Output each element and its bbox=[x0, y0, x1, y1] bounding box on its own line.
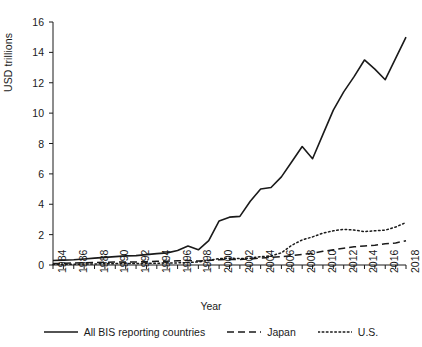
x-tick-1984: 1984 bbox=[57, 250, 68, 273]
y-tick-8: 8 bbox=[18, 139, 44, 150]
plot-area bbox=[0, 0, 422, 347]
y-tick-12: 12 bbox=[18, 78, 44, 89]
chart-container: USD trillions Year 0246810121416 1984198… bbox=[0, 0, 422, 347]
x-tick-2014: 2014 bbox=[368, 250, 379, 273]
y-axis-title: USD trillions bbox=[2, 76, 14, 92]
x-tick-2002: 2002 bbox=[244, 250, 255, 273]
x-tick-1998: 1998 bbox=[202, 250, 213, 273]
x-tick-2006: 2006 bbox=[285, 250, 296, 273]
x-axis-title: Year bbox=[0, 300, 422, 312]
x-tick-2012: 2012 bbox=[348, 250, 359, 273]
x-tick-1994: 1994 bbox=[161, 250, 172, 273]
legend-swatch-dotted-icon bbox=[318, 328, 352, 336]
legend-label-0: All BIS reporting countries bbox=[84, 326, 205, 338]
legend-label-1: Japan bbox=[267, 326, 296, 338]
x-tick-2008: 2008 bbox=[306, 250, 317, 273]
legend-entry-2[interactable]: U.S. bbox=[318, 326, 378, 338]
x-tick-1990: 1990 bbox=[119, 250, 130, 273]
x-tick-2010: 2010 bbox=[327, 250, 338, 273]
x-tick-2016: 2016 bbox=[389, 250, 400, 273]
y-tick-0: 0 bbox=[18, 260, 44, 271]
x-tick-2000: 2000 bbox=[223, 250, 234, 273]
x-tick-1988: 1988 bbox=[99, 250, 110, 273]
legend-entry-1[interactable]: Japan bbox=[227, 326, 296, 338]
y-tick-10: 10 bbox=[18, 108, 44, 119]
legend-swatch-solid-icon bbox=[44, 328, 78, 336]
y-tick-4: 4 bbox=[18, 199, 44, 210]
y-tick-2: 2 bbox=[18, 230, 44, 241]
x-tick-2004: 2004 bbox=[265, 250, 276, 273]
y-tick-16: 16 bbox=[18, 17, 44, 28]
legend-entry-0[interactable]: All BIS reporting countries bbox=[44, 326, 205, 338]
legend-label-2: U.S. bbox=[358, 326, 378, 338]
legend-swatch-dashed-icon bbox=[227, 328, 261, 336]
y-tick-6: 6 bbox=[18, 169, 44, 180]
series-line-0 bbox=[53, 37, 406, 260]
x-tick-1992: 1992 bbox=[140, 250, 151, 273]
y-tick-14: 14 bbox=[18, 47, 44, 58]
chart-legend: All BIS reporting countriesJapanU.S. bbox=[0, 326, 422, 338]
x-tick-2018: 2018 bbox=[410, 250, 421, 273]
x-tick-1986: 1986 bbox=[78, 250, 89, 273]
x-tick-1996: 1996 bbox=[182, 250, 193, 273]
axis-lines bbox=[53, 22, 406, 265]
